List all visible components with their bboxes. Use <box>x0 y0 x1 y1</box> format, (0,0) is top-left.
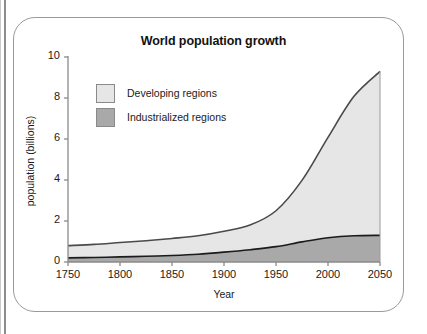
legend-swatch-developing <box>96 84 115 103</box>
legend-item-industrialized[interactable]: Industrialized regions <box>96 106 226 128</box>
x-tick-label: 1900 <box>199 268 249 280</box>
x-tick-label: 1750 <box>43 268 93 280</box>
y-tick-label: 8 <box>34 90 60 102</box>
x-tick-label: 2050 <box>355 268 405 280</box>
population-area-chart <box>0 0 427 334</box>
y-tick-label: 4 <box>34 172 60 184</box>
chart-legend: Developing regions Industrialized region… <box>96 82 226 130</box>
legend-label-developing: Developing regions <box>127 87 217 99</box>
legend-item-developing[interactable]: Developing regions <box>96 82 226 104</box>
x-tick-label: 1850 <box>147 268 197 280</box>
legend-label-industrialized: Industrialized regions <box>127 111 226 123</box>
chart-title: World population growth <box>0 34 427 48</box>
figure-page: World population growth Year population … <box>0 0 427 334</box>
y-tick-label: 10 <box>34 49 60 61</box>
y-tick-label: 0 <box>34 254 60 266</box>
x-tick-label: 2000 <box>303 268 353 280</box>
y-tick-label: 6 <box>34 131 60 143</box>
x-axis-title: Year <box>68 288 380 300</box>
legend-swatch-industrialized <box>96 108 115 127</box>
x-tick-label: 1800 <box>95 268 145 280</box>
x-tick-label: 1950 <box>251 268 301 280</box>
y-tick-label: 2 <box>34 213 60 225</box>
